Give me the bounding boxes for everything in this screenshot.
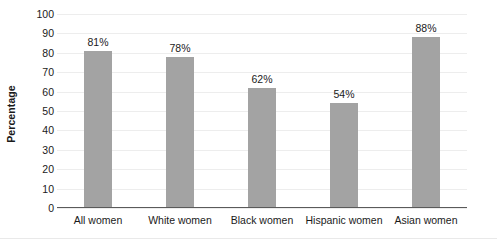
y-axis-tick-label: 80 — [22, 47, 54, 58]
y-axis-tick-label: 30 — [22, 144, 54, 155]
bar-value-label: 54% — [333, 88, 354, 100]
y-axis-tick-label: 40 — [22, 125, 54, 136]
y-axis-tick-label: 60 — [22, 86, 54, 97]
x-axis-label: Hispanic women — [305, 213, 382, 227]
bar[interactable] — [248, 88, 276, 208]
bar-value-label: 81% — [87, 36, 108, 48]
bar-slot: 54% — [303, 14, 385, 208]
plot-area: 81%78%62%54%88% — [57, 14, 467, 208]
bar[interactable] — [330, 103, 358, 208]
x-axis-label: All women — [74, 213, 122, 227]
bar[interactable] — [166, 57, 194, 208]
y-axis-tick-label: 10 — [22, 183, 54, 194]
y-axis-tick-label: 100 — [22, 9, 54, 20]
x-axis-line — [57, 207, 467, 208]
bar-value-label: 78% — [169, 42, 190, 54]
x-axis-category-labels: All womenWhite womenBlack womenHispanic … — [57, 213, 467, 229]
y-axis-tick-labels: 1009080706050403020100 — [22, 8, 54, 208]
y-axis-tick-label: 70 — [22, 67, 54, 78]
bar-slot: 81% — [57, 14, 139, 208]
y-axis-tick-label: 50 — [22, 106, 54, 117]
bar-slot: 62% — [221, 14, 303, 208]
bar-slot: 88% — [385, 14, 467, 208]
y-axis-tick-label: 20 — [22, 164, 54, 175]
y-axis-tick-label: 0 — [22, 203, 54, 214]
y-axis-tick-label: 90 — [22, 28, 54, 39]
bar-value-label: 62% — [251, 73, 272, 85]
bar-chart: Percentage 1009080706050403020100 81%78%… — [0, 0, 497, 243]
x-axis-label: Black women — [231, 213, 293, 227]
bar-value-label: 88% — [415, 22, 436, 34]
x-axis-label: Asian women — [394, 213, 457, 227]
bar[interactable] — [84, 51, 112, 208]
x-axis-label: White women — [148, 213, 212, 227]
y-axis-title: Percentage — [0, 10, 22, 218]
bottom-divider — [0, 238, 497, 239]
bar[interactable] — [412, 37, 440, 208]
bar-slot: 78% — [139, 14, 221, 208]
